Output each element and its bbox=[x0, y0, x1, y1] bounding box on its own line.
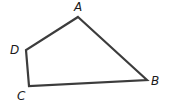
vertex-label-a: A bbox=[73, 0, 82, 14]
quadrilateral-figure: A B C D bbox=[0, 0, 172, 106]
vertex-label-b: B bbox=[151, 74, 159, 88]
vertex-label-c: C bbox=[17, 89, 26, 103]
diagram-canvas: A B C D bbox=[0, 0, 172, 106]
vertex-label-d: D bbox=[10, 43, 19, 57]
quadrilateral-abcd bbox=[26, 17, 147, 86]
